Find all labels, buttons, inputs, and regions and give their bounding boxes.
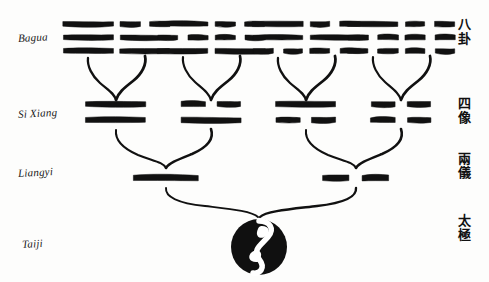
row-liangyi-figures bbox=[133, 174, 388, 181]
connectors-sixiang-to-liangyi bbox=[116, 129, 402, 168]
row-label-bagua: Bagua bbox=[18, 30, 48, 44]
connectors-liangyi-to-taiji bbox=[166, 188, 356, 217]
taiji-symbol bbox=[231, 219, 287, 275]
row-sixiang-figures bbox=[85, 101, 430, 124]
figure-xun bbox=[252, 21, 303, 54]
figure-yin bbox=[323, 174, 389, 181]
row-label-taiji: Taiji bbox=[22, 237, 43, 250]
chinese-char: 極 bbox=[447, 228, 481, 242]
figure-taiyang bbox=[85, 101, 145, 122]
row-bagua-figures bbox=[63, 21, 455, 55]
diagram-canvas bbox=[0, 0, 489, 282]
taiji-bagua-diagram: Bagua Si Xiang Liangyi Taiji 八 卦 四 像 兩 儀… bbox=[0, 0, 489, 282]
chinese-char: 卦 bbox=[447, 32, 481, 46]
figure-qian bbox=[63, 22, 114, 54]
chinese-label-taiji: 太 極 bbox=[447, 214, 481, 242]
chinese-char: 八 bbox=[447, 18, 481, 32]
figure-taiyin bbox=[370, 101, 430, 123]
chinese-char: 像 bbox=[447, 111, 481, 125]
figure-li bbox=[157, 21, 208, 54]
connectors-bagua-to-sixiang bbox=[88, 56, 431, 100]
chinese-char: 四 bbox=[447, 97, 481, 111]
row-label-liangyi: Liangyi bbox=[18, 165, 54, 179]
chinese-label-bagua: 八 卦 bbox=[447, 18, 481, 46]
chinese-label-liangyi: 兩 儀 bbox=[447, 152, 481, 180]
figure-gen bbox=[347, 21, 398, 54]
figure-shaoyin bbox=[181, 101, 241, 124]
row-label-sixiang: Si Xiang bbox=[18, 106, 58, 120]
chinese-char: 兩 bbox=[447, 152, 481, 166]
chinese-char: 太 bbox=[447, 214, 481, 228]
figure-shaoyang bbox=[276, 101, 336, 123]
chinese-char: 儀 bbox=[447, 166, 481, 180]
chinese-label-sixiang: 四 像 bbox=[447, 97, 481, 125]
figure-yang bbox=[133, 174, 198, 181]
